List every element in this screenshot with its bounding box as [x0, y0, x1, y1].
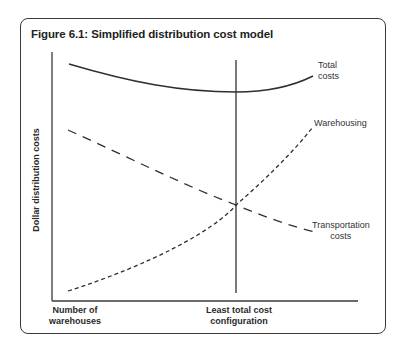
total-costs-label-line2: costs: [318, 71, 339, 82]
x-axis-label-mid-line1: Least total cost: [206, 305, 272, 316]
x-axis-label-mid-line2: configuration: [206, 316, 272, 327]
x-axis-label-left-line2: warehouses: [49, 316, 101, 327]
transportation-label-line1: Transportation: [312, 220, 370, 231]
transportation-label-line2: costs: [312, 231, 370, 242]
total-costs-label: Total costs: [318, 60, 339, 82]
transportation-curve: [68, 130, 315, 232]
warehousing-curve: [68, 128, 312, 291]
chart-canvas: [0, 0, 408, 355]
x-axis-label-mid: Least total cost configuration: [206, 305, 272, 327]
warehousing-label: Warehousing: [314, 118, 367, 129]
transportation-label: Transportation costs: [312, 220, 370, 242]
total-costs-curve: [69, 64, 313, 92]
x-axis-label-left-line1: Number of: [49, 305, 101, 316]
x-axis-label-left: Number of warehouses: [49, 305, 101, 327]
total-costs-label-line1: Total: [318, 60, 339, 71]
y-axis-label: Dollar distribution costs: [31, 128, 41, 232]
